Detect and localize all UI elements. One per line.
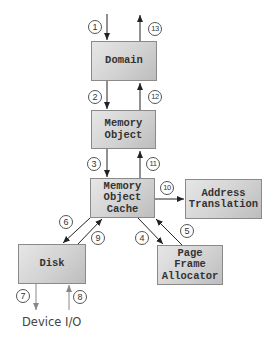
step-badge-7: 7 bbox=[16, 289, 30, 303]
node-address-translation: Address Translation bbox=[185, 179, 262, 219]
device-io-label: Device I/O bbox=[22, 315, 81, 329]
diagram-canvas: Domain Memory Object Memory Object Cache… bbox=[0, 0, 274, 339]
node-domain: Domain bbox=[91, 41, 157, 81]
step-badge-6: 6 bbox=[59, 215, 73, 229]
step-badge-10: 10 bbox=[160, 181, 174, 195]
node-memory-object: Memory Object bbox=[91, 110, 156, 149]
step-badge-1: 1 bbox=[88, 20, 102, 34]
node-disk: Disk bbox=[18, 244, 86, 284]
step-badge-2: 2 bbox=[88, 90, 102, 104]
step-badge-3: 3 bbox=[87, 157, 101, 171]
node-memory-object-cache: Memory Object Cache bbox=[90, 178, 155, 218]
step-badge-11: 11 bbox=[146, 157, 160, 171]
step-badge-8: 8 bbox=[73, 290, 87, 304]
step-badge-4: 4 bbox=[135, 231, 149, 245]
step-badge-9: 9 bbox=[91, 231, 105, 245]
step-badge-5: 5 bbox=[180, 224, 194, 238]
node-page-frame-allocator: Page Frame Allocator bbox=[157, 245, 223, 285]
step-badge-13: 13 bbox=[148, 22, 162, 36]
step-badge-12: 12 bbox=[148, 90, 162, 104]
